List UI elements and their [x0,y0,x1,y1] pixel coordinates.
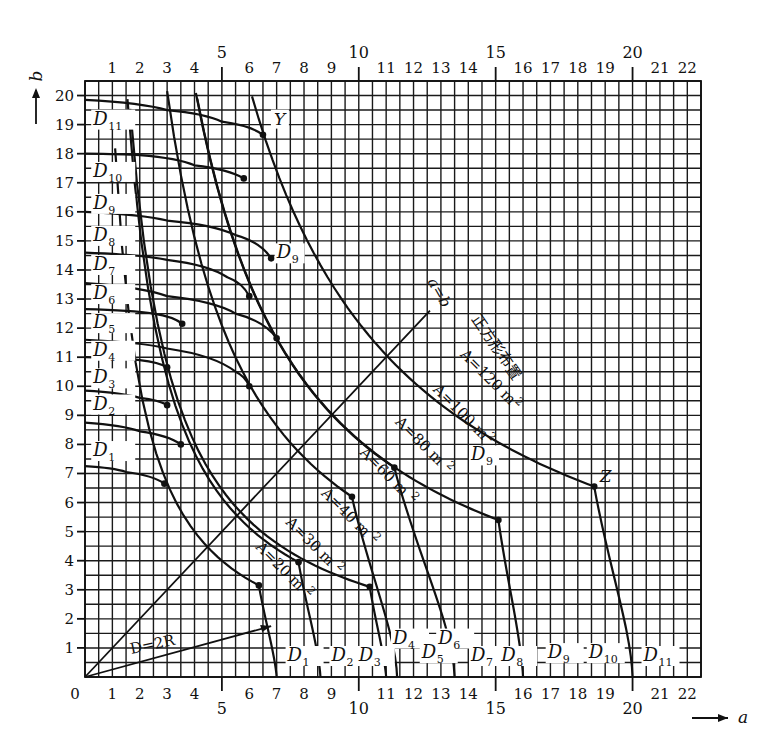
d-label-left-2: D [92,393,108,414]
x-major-tick-label: 20 [622,699,642,718]
d-label-left-sub-9: 9 [108,204,115,217]
chart-canvas: 1122334466778899111112121313141416161717… [0,0,776,749]
y-tick-label: 3 [64,581,74,599]
y-tick-label: 6 [64,494,74,512]
x-tick-label: 12 [404,685,423,703]
x-tick-label-top: 21 [650,59,669,77]
x-tick-label: 4 [190,685,200,703]
d9-mid-sub: 9 [486,455,493,468]
y-tick-label: 4 [64,552,74,570]
d-label-left-1: D [92,439,108,460]
d-label-left-sub-8: 8 [108,236,115,249]
y-tick-label: 13 [55,290,74,308]
y-tick-label: 11 [55,348,74,366]
x-tick-label-top: 6 [244,59,254,77]
x-tick-label: 1 [108,685,118,703]
d-curve-knee-9 [268,255,275,262]
d-label-bottom-10: D [588,641,604,662]
x-tick-label: 18 [568,685,587,703]
d-curve-knee-3 [164,402,171,409]
d-label-left-5: D [92,311,108,332]
area-curve-knee-30 [295,559,302,566]
area-curve-knee-40 [366,584,373,591]
d-label-bottom-sub-6: 6 [453,639,460,652]
y-tick-label: 10 [55,377,74,395]
d-curve-knee-10 [240,175,247,182]
x-tick-label-top: 19 [596,59,615,77]
x-tick-label: 9 [327,685,337,703]
d-label-left-8: D [92,224,108,245]
x-tick-label: 13 [431,685,450,703]
d-label-bottom-sub-2: 2 [346,656,353,669]
d9-prime-label: D [276,241,292,262]
d-label-bottom-2: D [330,644,346,665]
d-label-left-3: D [92,366,108,387]
x-major-tick-label-top: 15 [485,43,505,62]
d-label-bottom-sub-7: 7 [486,656,493,669]
d-label-left-sub-1: 1 [108,451,115,464]
x-tick-label-top: 17 [541,59,560,77]
area-label-sup-20: 2 [304,584,318,598]
radius-arrowhead [260,625,271,632]
d-label-left-9: D [92,192,108,213]
d-label-bottom-11: D [643,644,659,665]
y-tick-label: 7 [64,464,74,482]
d-label-left-sub-10: 10 [108,172,122,185]
d-label-left-sub-3: 3 [108,378,115,391]
d-label-bottom-sub-11: 11 [659,656,673,669]
x-tick-label: 17 [541,685,560,703]
x-major-tick-label-top: 20 [622,43,642,62]
y-tick-label: 14 [55,261,74,279]
x-tick-label-top: 18 [568,59,587,77]
x-axis-label: a [738,707,748,727]
d-label-bottom-sub-1: 1 [303,656,310,669]
d-label-left-sub-5: 5 [108,323,115,336]
x-tick-label: 11 [377,685,396,703]
x-tick-label-top: 1 [108,59,118,77]
x-tick-label: 8 [299,685,309,703]
x-tick-label: 2 [135,685,145,703]
d-label-left-10: D [92,160,108,181]
x-tick-label: 6 [244,685,254,703]
x-major-tick-label: 10 [349,699,369,718]
y-tick-label: 19 [55,116,74,134]
x-tick-label-top: 16 [513,59,532,77]
y-tick-label: 9 [64,406,74,424]
x-tick-label-top: 2 [135,59,145,77]
d-label-bottom-sub-8: 8 [516,656,523,669]
x-tick-label-top: 14 [459,59,478,77]
d-label-left-sub-2: 2 [108,405,115,418]
x-tick-label: 19 [596,685,615,703]
d-label-bottom-8: D [500,644,516,665]
x-tick-label: 16 [513,685,532,703]
d-label-bottom-1: D [287,644,303,665]
d-label-bottom-3: D [358,644,374,665]
x-major-tick-label-top: 5 [217,43,227,62]
x-tick-label-top: 12 [404,59,423,77]
d9-prime-sub: 9 [292,253,299,266]
area-curve-upper-80 [196,93,394,468]
d-label-bottom-sub-9: 9 [563,653,570,666]
x-tick-label: 14 [459,685,478,703]
y-tick-label: 2 [64,610,74,628]
y-tick-label: 12 [55,319,74,337]
area-curve-upper-20 [115,148,259,585]
x-tick-label-top: 3 [162,59,172,77]
x-tick-label-top: 11 [377,59,396,77]
area-label-sup-80: 2 [444,459,458,473]
y-tick-label: 16 [55,203,74,221]
d-label-bottom-sub-10: 10 [604,653,618,666]
d-label-left-6: D [92,282,108,303]
y-tick-label: 8 [64,435,74,453]
y-tick-label: 20 [55,87,74,105]
x-major-tick-label: 15 [485,699,505,718]
d-curve-knee-6 [179,320,186,327]
area-curve-knee-120 [591,483,598,490]
d-curve-knee-8 [246,293,253,300]
y-tick-label: 5 [64,523,74,541]
d9-mid-label: D [470,443,486,464]
area-label-60: A=60 m [355,443,412,500]
y-axis-arrowhead [32,88,40,98]
origin-label: 0 [70,685,80,703]
x-tick-label-top: 8 [299,59,309,77]
